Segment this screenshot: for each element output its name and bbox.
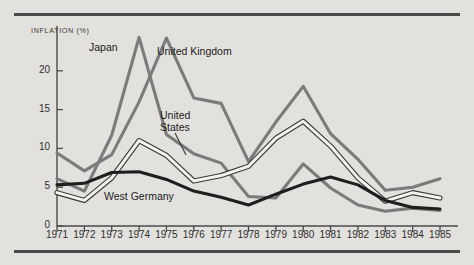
x-tick-label: 1980	[288, 229, 318, 240]
y-tick-label: 20	[30, 64, 50, 75]
x-tick-label: 1977	[206, 229, 236, 240]
series-lines-group	[57, 37, 440, 211]
x-tick-label: 1974	[124, 229, 154, 240]
plot-area	[0, 0, 474, 265]
x-tick-label: 1983	[370, 229, 400, 240]
x-tick-label: 1973	[97, 229, 127, 240]
x-tick-label: 1975	[151, 229, 181, 240]
series-label-united-states-line1: United	[160, 109, 190, 121]
x-tick-label: 1976	[179, 229, 209, 240]
series-label-united-states: United States	[160, 110, 190, 133]
y-tick-label: 10	[30, 141, 50, 152]
series-label-japan: Japan	[89, 41, 118, 53]
y-tick-label: 15	[30, 103, 50, 114]
y-tick-label: 5	[30, 180, 50, 191]
series-label-west-germany: West Germany	[104, 190, 174, 202]
x-tick-label: 1979	[261, 229, 291, 240]
series-label-united-states-line2: States	[160, 121, 190, 133]
x-tick-label: 1982	[343, 229, 373, 240]
x-tick-label: 1985	[425, 229, 455, 240]
x-tick-label: 1981	[316, 229, 346, 240]
us-leader-line	[175, 133, 186, 155]
leader-line-group	[175, 133, 186, 155]
inflation-chart-figure: INFLATION (%) Japan United Kingdom Unite…	[0, 0, 474, 265]
x-tick-label: 1984	[398, 229, 428, 240]
x-tick-label: 1972	[69, 229, 99, 240]
series-label-united-kingdom: United Kingdom	[157, 45, 232, 57]
x-tick-label: 1971	[42, 229, 72, 240]
x-tick-label: 1978	[234, 229, 264, 240]
